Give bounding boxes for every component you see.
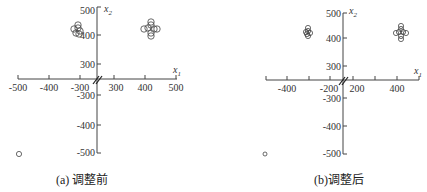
- y-tick-label: 500: [80, 5, 95, 16]
- panel-b-after-adjustment: -400 -200 200 400 500 400 300 -300 -400 …: [214, 0, 427, 192]
- panel-a-before-adjustment: -500 -400 -300 300 400 500 500 400 300 -…: [0, 0, 214, 192]
- caption-a: (a) 调整前: [56, 170, 108, 188]
- x-tick-label: 400: [138, 82, 153, 93]
- y-tick-label: -400: [77, 120, 95, 131]
- x-tick-label: 200: [350, 83, 365, 94]
- x-axis-label: x1: [172, 64, 181, 78]
- data-point-outlier: [16, 151, 21, 156]
- y-tick-label: 300: [326, 61, 341, 72]
- data-cluster-right: [141, 19, 160, 39]
- y-tick-label: 300: [80, 59, 95, 70]
- data-cluster-right: [393, 23, 408, 41]
- y-tick-label: -300: [323, 93, 341, 104]
- y-tick-label: 500: [326, 8, 341, 19]
- y-tick-label: 400: [326, 33, 341, 44]
- caption-b: (b)调整后: [314, 170, 364, 188]
- y-axis-label: x2: [348, 5, 357, 19]
- x-tick-label: 300: [109, 82, 124, 93]
- x-tick-label: -500: [9, 82, 27, 93]
- scatter-plot-a: -500 -400 -300 300 400 500 500 400 300 -…: [0, 0, 214, 165]
- y-tick-label: -400: [323, 121, 341, 132]
- y-axis-label: x2: [103, 3, 112, 17]
- y-tick-label: -500: [323, 148, 341, 159]
- y-tick-label: -500: [77, 147, 95, 158]
- x-tick-label: 400: [390, 83, 405, 94]
- x-tick-label: -400: [278, 83, 296, 94]
- scatter-plot-b: -400 -200 200 400 500 400 300 -300 -400 …: [214, 0, 427, 165]
- y-tick-label: -300: [77, 90, 95, 101]
- x-tick-label: 500: [169, 82, 184, 93]
- x-tick-label: -400: [40, 82, 58, 93]
- data-cluster-left: [303, 25, 312, 38]
- data-point-outlier: [263, 152, 267, 156]
- x-axis-label: x1: [413, 65, 422, 79]
